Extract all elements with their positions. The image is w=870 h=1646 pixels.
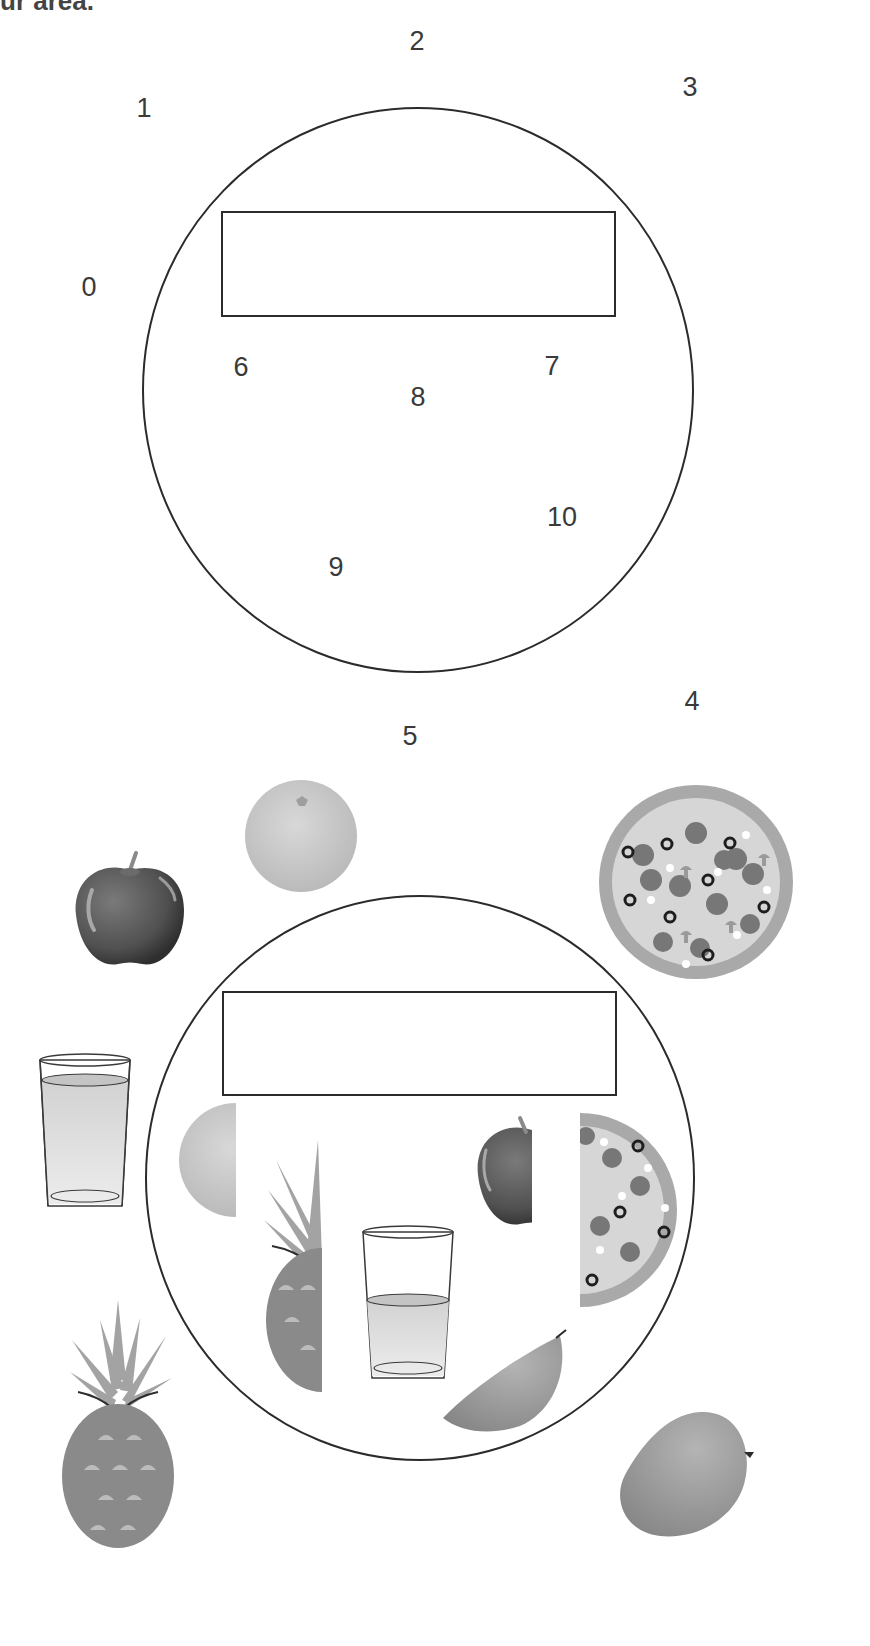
apple-icon (76, 853, 184, 965)
half-apple-icon (478, 1118, 586, 1225)
orange-icon (245, 780, 357, 892)
glass-of-juice-icon (40, 1054, 130, 1206)
bottom-diagram (0, 0, 870, 1646)
mango-slice-icon (443, 1330, 566, 1432)
pineapple-icon (62, 1300, 174, 1548)
half-pineapple-icon (264, 1140, 378, 1392)
half-glass-of-juice-icon (363, 1226, 453, 1378)
pizza-icon (599, 785, 793, 979)
bottom-rectangle (223, 992, 616, 1095)
mango-icon (620, 1412, 754, 1536)
